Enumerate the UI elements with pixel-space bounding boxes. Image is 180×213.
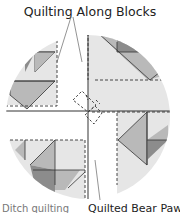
quilt-circle-diagram	[0, 0, 180, 213]
block-top-left	[5, 35, 57, 109]
ditch-quilting-label: Ditch quilting	[2, 203, 69, 213]
bear-paw-label: Quilted Bear Paw	[88, 202, 180, 213]
block-bottom-right	[117, 110, 180, 205]
block-top-right	[88, 30, 178, 110]
block-bottom-left	[5, 140, 85, 205]
